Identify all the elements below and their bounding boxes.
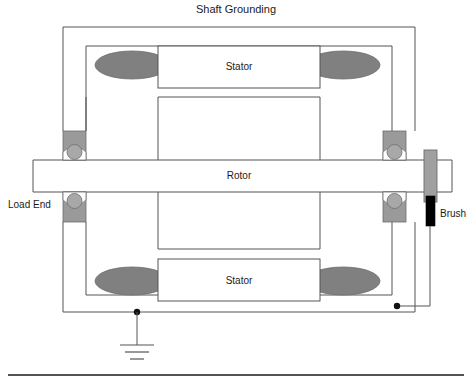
stator-top-label: Stator	[226, 61, 253, 72]
grounding-conductor	[398, 226, 430, 306]
stator-bottom-label: Stator	[226, 275, 253, 286]
rotor-label-overlay: Rotor	[227, 170, 252, 181]
diagram-canvas: Shaft Grounding	[0, 0, 472, 386]
brush-label: Brush	[440, 208, 466, 219]
shaft-grounding-diagram: Shaft Grounding	[0, 0, 472, 386]
bearing-load-end-top	[63, 131, 86, 160]
slip-ring	[424, 150, 437, 202]
junction-dot-right	[394, 303, 400, 309]
diagram-title: Shaft Grounding	[196, 3, 276, 15]
bearing-drive-end-top	[383, 131, 406, 160]
bearing-load-end-bottom	[63, 192, 86, 222]
ground-symbol	[120, 312, 154, 359]
bearing-drive-end-bottom	[383, 192, 406, 222]
load-end-label: Load End	[8, 199, 51, 210]
brush	[426, 196, 435, 226]
